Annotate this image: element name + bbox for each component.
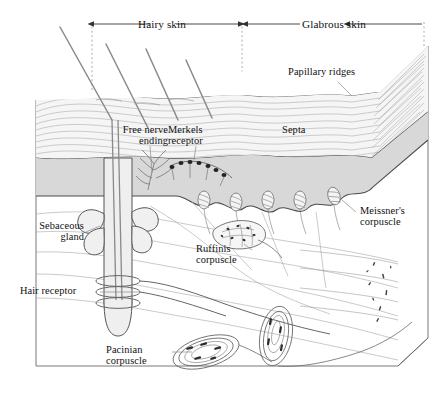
band-label-glabrous-skin: Glabrous skin <box>278 18 390 30</box>
label-ruffinis-corpuscle: Ruffinis corpuscle <box>196 243 262 265</box>
label-septa: Septa <box>282 124 328 135</box>
hair-follicle-group <box>104 158 132 336</box>
skin-cross-section-figure: Hairy skin Glabrous skin Papillary ridge… <box>0 0 434 405</box>
band-label-hairy-skin: Hairy skin <box>108 18 216 30</box>
label-merkels-receptor: Merkels receptor <box>168 124 230 146</box>
label-papillary-ridges: Papillary ridges <box>288 66 392 77</box>
label-meissners-corpuscle: Meissner's corpuscle <box>360 205 432 227</box>
label-hair-receptor: Hair receptor <box>20 285 100 296</box>
label-pacinian-corpuscle: Pacinian corpuscle <box>106 344 172 366</box>
skin-diagram-svg <box>0 0 434 405</box>
label-free-nerve-ending: Free nerve ending <box>94 124 168 146</box>
label-sebaceous-gland: Sebaceous gland <box>8 220 84 242</box>
